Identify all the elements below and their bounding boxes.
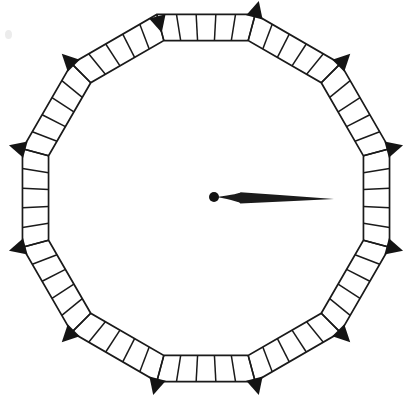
scan-speck <box>5 30 12 39</box>
scan-speck-group <box>5 30 12 39</box>
dial-figure-svg <box>0 0 409 403</box>
figure-root: Polygonal dial with vertex markers and c… <box>0 0 409 403</box>
needle-hub <box>209 192 219 202</box>
